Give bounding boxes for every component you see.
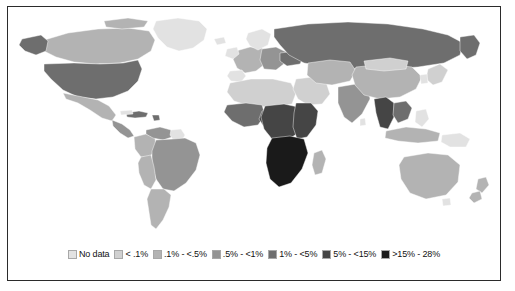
prevalence-legend: No data < .1% .1% - <.5% .5% - <1% 1% - … xyxy=(8,243,500,265)
legend-label-point-five-to-one: .5% - <1% xyxy=(223,249,263,259)
region-madagascar xyxy=(312,150,326,175)
legend-item-under-point-one[interactable]: < .1% xyxy=(114,249,148,259)
region-west-africa xyxy=(224,103,265,127)
legend-swatch-over-fifteen xyxy=(381,250,390,259)
region-russia-far-east xyxy=(460,35,480,59)
region-brazil xyxy=(152,138,200,191)
legend-item-one-to-five[interactable]: 1% - <5% xyxy=(268,249,317,259)
region-caribbean-east xyxy=(152,115,160,121)
legend-label-under-point-one: < .1% xyxy=(125,249,148,259)
region-new-zealand-south xyxy=(469,191,482,203)
legend-item-five-to-fifteen[interactable]: 5% - <15% xyxy=(322,249,376,259)
legend-swatch-under-point-one xyxy=(114,250,123,259)
region-philippines xyxy=(415,109,429,127)
region-southeast-asia xyxy=(393,101,412,123)
legend-label-five-to-fifteen: 5% - <15% xyxy=(333,249,376,259)
region-australia xyxy=(399,153,460,199)
legend-label-point-one-to-point-five: .1% - <.5% xyxy=(164,249,207,259)
legend-label-no-data: No data xyxy=(79,249,109,259)
legend-swatch-point-five-to-one xyxy=(212,250,221,259)
region-tasmania xyxy=(442,198,451,206)
legend-item-point-one-to-point-five[interactable]: .1% - <.5% xyxy=(153,249,207,259)
region-iceland xyxy=(214,37,226,45)
region-central-asia xyxy=(307,60,356,85)
region-new-zealand xyxy=(476,177,489,193)
region-argentina-chile xyxy=(147,189,171,229)
legend-label-over-fifteen: >15% - 28% xyxy=(392,249,440,259)
figure-frame: No data < .1% .1% - <.5% .5% - <1% 1% - … xyxy=(7,6,501,281)
legend-item-point-five-to-one[interactable]: .5% - <1% xyxy=(212,249,263,259)
legend-swatch-point-one-to-point-five xyxy=(153,250,162,259)
region-east-africa xyxy=(293,103,318,139)
map-area xyxy=(8,7,500,239)
region-cuba-strip xyxy=(120,110,133,115)
region-iberia xyxy=(227,70,246,82)
legend-label-one-to-five: 1% - <5% xyxy=(279,249,317,259)
region-united-states xyxy=(44,60,142,99)
region-thailand-myanmar xyxy=(374,97,394,129)
legend-item-no-data[interactable]: No data xyxy=(68,249,109,259)
region-southern-africa xyxy=(266,136,308,187)
region-greenland xyxy=(153,18,207,51)
region-korea xyxy=(420,74,428,84)
region-new-guinea xyxy=(441,133,470,147)
region-alaska xyxy=(19,35,48,55)
region-indonesia xyxy=(385,127,440,143)
region-canada-islands xyxy=(104,18,148,29)
region-north-africa xyxy=(227,79,296,107)
world-map-svg xyxy=(8,7,500,239)
legend-swatch-five-to-fifteen xyxy=(322,250,331,259)
region-sri-lanka xyxy=(360,118,366,126)
region-central-america xyxy=(112,120,134,138)
region-japan-korea xyxy=(426,64,448,85)
legend-item-over-fifteen[interactable]: >15% - 28% xyxy=(381,249,440,259)
legend-swatch-no-data xyxy=(68,250,77,259)
legend-swatch-one-to-five xyxy=(268,250,277,259)
region-canada xyxy=(41,28,155,64)
